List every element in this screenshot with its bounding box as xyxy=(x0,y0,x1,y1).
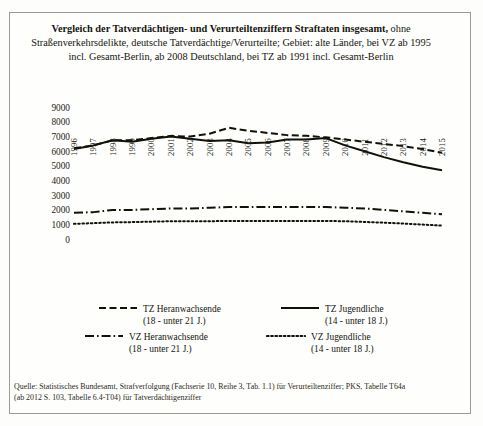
x-tick-2005: 2005 xyxy=(243,138,253,156)
chart-title: Vergleich der Tatverdächtigen- und Verur… xyxy=(26,22,436,65)
x-tick-2010: 2010 xyxy=(340,138,350,156)
x-tick-1998: 1998 xyxy=(108,138,118,156)
x-tick-2015: 2015 xyxy=(437,138,447,156)
legend-label-vz-heranwachsende: VZ Heranwachsende xyxy=(129,331,208,343)
legend-sublabel-vz-heranwachsende: (18 - unter 21 J.) xyxy=(84,343,208,355)
x-tick-2001: 2001 xyxy=(166,138,176,156)
chart-legend: TZ Heranwachsende(18 - unter 21 J.)TZ Ju… xyxy=(0,300,462,370)
legend-swatch-tz-heranwachsende xyxy=(98,304,138,312)
source-line-1: Quelle: Statistisches Bundesamt, Strafve… xyxy=(14,381,466,392)
x-tick-1996: 1996 xyxy=(69,138,79,156)
x-tick-2002: 2002 xyxy=(185,138,195,156)
x-tick-2006: 2006 xyxy=(263,138,273,156)
x-tick-2008: 2008 xyxy=(301,138,311,156)
legend-label-vz-jugendliche: VZ Jugendliche xyxy=(311,331,371,343)
x-tick-2014: 2014 xyxy=(418,138,428,156)
series-line-2 xyxy=(74,207,442,214)
legend-swatch-vz-jugendliche xyxy=(266,332,306,340)
legend-item-vz-heranwachsende: VZ Heranwachsende(18 - unter 21 J.) xyxy=(84,330,208,355)
x-tick-2003: 2003 xyxy=(205,138,215,156)
source-note: Quelle: Statistisches Bundesamt, Strafve… xyxy=(14,381,466,404)
legend-label-tz-jugendliche: TZ Jugendliche xyxy=(325,303,384,315)
x-tick-2004: 2004 xyxy=(224,138,234,156)
legend-swatch-tz-jugendliche xyxy=(280,304,320,312)
x-axis-tick-labels: 1996199719981999200020012002200320042005… xyxy=(68,138,448,184)
x-tick-2011: 2011 xyxy=(360,138,370,156)
y-axis-tick-labels: 0100020003000400050006000700080009000 xyxy=(24,108,70,240)
legend-sublabel-tz-heranwachsende: (18 - unter 21 J.) xyxy=(98,315,221,327)
x-tick-1997: 1997 xyxy=(88,138,98,156)
x-tick-2013: 2013 xyxy=(398,138,408,156)
chart-page: Vergleich der Tatverdächtigen- und Verur… xyxy=(0,0,483,426)
x-tick-2007: 2007 xyxy=(282,138,292,156)
legend-sublabel-tz-jugendliche: (14 - unter 18 J.) xyxy=(280,315,388,327)
legend-sublabel-vz-jugendliche: (14 - unter 18 J.) xyxy=(266,343,374,355)
legend-label-tz-heranwachsende: TZ Heranwachsende xyxy=(143,303,221,315)
x-tick-2009: 2009 xyxy=(321,138,331,156)
legend-item-tz-heranwachsende: TZ Heranwachsende(18 - unter 21 J.) xyxy=(98,302,221,327)
x-tick-2012: 2012 xyxy=(379,138,389,156)
x-tick-1999: 1999 xyxy=(127,138,137,156)
legend-item-tz-jugendliche: TZ Jugendliche(14 - unter 18 J.) xyxy=(280,302,388,327)
chart-title-bold: Vergleich der Tatverdächtigen- und Verur… xyxy=(51,23,388,34)
x-tick-2000: 2000 xyxy=(146,138,156,156)
source-line-2: (ab 2012 S. 103, Tabelle 6.4-T04) für Ta… xyxy=(14,392,466,403)
legend-item-vz-jugendliche: VZ Jugendliche(14 - unter 18 J.) xyxy=(266,330,374,355)
series-line-3 xyxy=(74,221,442,226)
legend-swatch-vz-heranwachsende xyxy=(84,332,124,340)
